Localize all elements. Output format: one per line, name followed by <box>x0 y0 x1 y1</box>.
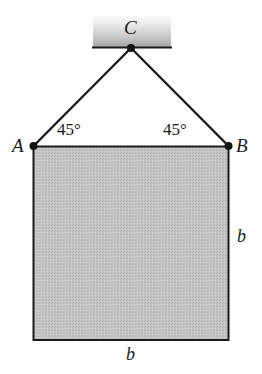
label-point-b: B <box>236 136 248 155</box>
label-angle-at-a: 45° <box>57 121 81 138</box>
square-block <box>34 147 229 341</box>
physics-figure-suspended-block: C A B 45° 45° b b <box>0 0 262 374</box>
label-point-a: A <box>12 136 24 155</box>
joint-dot-c <box>127 44 135 52</box>
label-angle-at-b: 45° <box>163 121 187 138</box>
label-side-length-right: b <box>237 227 246 245</box>
label-point-c: C <box>124 18 137 37</box>
label-side-length-bottom: b <box>126 345 135 363</box>
figure-canvas <box>0 0 262 374</box>
joint-dot-b <box>225 142 233 150</box>
joint-dot-a <box>30 142 38 150</box>
cable-ca <box>34 48 132 146</box>
